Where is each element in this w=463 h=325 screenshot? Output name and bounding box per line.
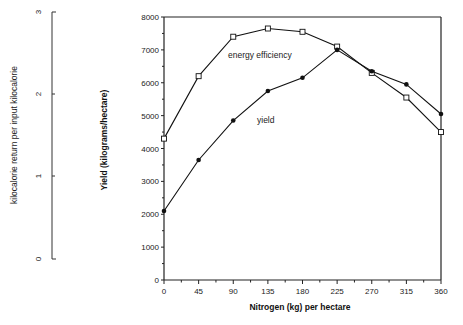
series-yield bbox=[162, 48, 444, 214]
circle-marker bbox=[300, 76, 305, 81]
annotation-energy-efficiency: energy efficiency bbox=[228, 50, 292, 60]
circle-marker bbox=[335, 48, 340, 53]
square-marker bbox=[300, 29, 305, 34]
secondary-axis-label: kilocalorie return per input kilocalorie bbox=[9, 66, 19, 204]
square-marker bbox=[196, 74, 201, 79]
y-tick-label: 7000 bbox=[141, 46, 159, 55]
x-tick-label: 270 bbox=[365, 287, 379, 296]
circle-marker bbox=[196, 158, 201, 163]
square-marker bbox=[439, 130, 444, 135]
y-tick-label: 4000 bbox=[141, 145, 159, 154]
y-tick-label: 5000 bbox=[141, 112, 159, 121]
x-tick-label: 180 bbox=[296, 287, 310, 296]
x-tick-label: 225 bbox=[330, 287, 344, 296]
circle-marker bbox=[439, 112, 444, 117]
y-tick-label: 1000 bbox=[141, 243, 159, 252]
circle-marker bbox=[231, 118, 236, 123]
x-tick-label: 45 bbox=[194, 287, 203, 296]
y-tick-label: 0 bbox=[155, 276, 160, 285]
series-energy-efficiency bbox=[162, 26, 444, 141]
x-axis-label: Nitrogen (kg) per hectare bbox=[249, 302, 350, 312]
x-tick-label: 315 bbox=[400, 287, 414, 296]
plot-area: 0100020003000400050006000700080000459013… bbox=[141, 13, 448, 296]
circle-marker bbox=[369, 69, 374, 74]
y2-tick-label: 3 bbox=[34, 9, 43, 14]
x-tick-label: 0 bbox=[162, 287, 167, 296]
y-axis-label: Yield (kilograms/hectare) bbox=[99, 89, 109, 190]
square-marker bbox=[265, 26, 270, 31]
annotation-yield: yield bbox=[257, 115, 275, 125]
square-marker bbox=[404, 95, 409, 100]
square-marker bbox=[162, 136, 167, 141]
circle-marker bbox=[404, 82, 409, 87]
circle-marker bbox=[266, 89, 271, 94]
circle-marker bbox=[162, 209, 167, 214]
y2-tick-label: 0 bbox=[34, 256, 43, 261]
y2-tick-label: 1 bbox=[34, 173, 43, 178]
y-tick-label: 8000 bbox=[141, 13, 159, 22]
chart: 0123 kilocalorie return per input kiloca… bbox=[0, 0, 463, 325]
y2-tick-label: 2 bbox=[34, 91, 43, 96]
x-tick-label: 90 bbox=[229, 287, 238, 296]
x-tick-label: 135 bbox=[261, 287, 275, 296]
y-tick-label: 2000 bbox=[141, 210, 159, 219]
y-tick-label: 3000 bbox=[141, 177, 159, 186]
y-tick-label: 6000 bbox=[141, 79, 159, 88]
square-marker bbox=[231, 34, 236, 39]
secondary-axis: 0123 kilocalorie return per input kiloca… bbox=[9, 9, 56, 261]
x-tick-label: 360 bbox=[434, 287, 448, 296]
